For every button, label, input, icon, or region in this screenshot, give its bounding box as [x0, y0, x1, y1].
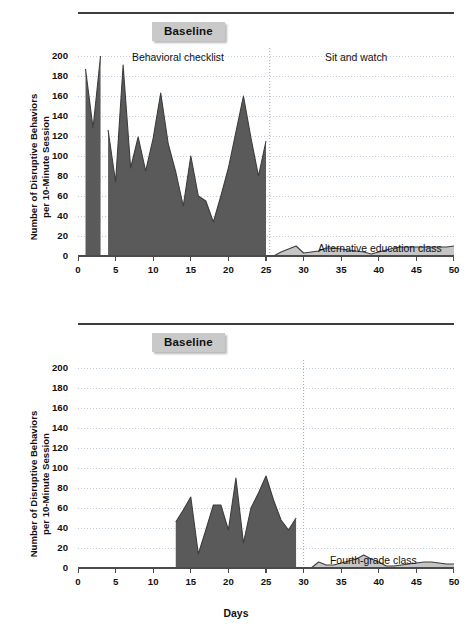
x-tick-label: 50 [439, 576, 469, 587]
x-axis-title: Days [0, 608, 472, 619]
y-tick-label: 180 [30, 382, 68, 393]
x-tick-label: 15 [176, 264, 206, 275]
chart-panel-top: Baseline Number of Disruptive Behaviors … [0, 0, 472, 312]
x-tick-label: 15 [176, 576, 206, 587]
series-label-fourth-grade-class: Fourth-grade class [330, 555, 417, 566]
y-tick-label: 0 [30, 250, 68, 261]
y-tick-label: 180 [30, 70, 68, 81]
chart-panel-bottom: Baseline Number of Disruptive Behaviors … [0, 312, 472, 630]
y-tick-label: 140 [30, 422, 68, 433]
baseline-badge-top: Baseline [152, 22, 225, 41]
y-tick-label: 40 [30, 522, 68, 533]
y-tick-label: 0 [30, 562, 68, 573]
y-tick-label: 200 [30, 362, 68, 373]
x-tick-label: 30 [289, 576, 319, 587]
x-tick-label: 0 [63, 264, 93, 275]
y-tick-label: 60 [30, 502, 68, 513]
x-tick-label: 45 [401, 576, 431, 587]
y-tick-label: 40 [30, 210, 68, 221]
x-tick-label: 40 [364, 576, 394, 587]
y-tick-label: 80 [30, 170, 68, 181]
y-tick-label: 160 [30, 402, 68, 413]
y-tick-label: 100 [30, 462, 68, 473]
y-tick-label: 20 [30, 542, 68, 553]
y-tick-label: 200 [30, 50, 68, 61]
phase-label-behavioral-checklist: Behavioral checklist [132, 52, 224, 63]
series-label-alternative-education-class: Alternative education class [318, 243, 442, 254]
x-tick-label: 0 [63, 576, 93, 587]
x-tick-label: 35 [326, 576, 356, 587]
x-tick-label: 5 [101, 576, 131, 587]
phase-label-sit-and-watch: Sit and watch [325, 52, 387, 63]
y-tick-label: 140 [30, 110, 68, 121]
x-tick-label: 25 [251, 264, 281, 275]
y-tick-label: 120 [30, 442, 68, 453]
panel-top-rule [78, 12, 454, 14]
x-tick-label: 10 [138, 576, 168, 587]
y-tick-label: 60 [30, 190, 68, 201]
y-tick-label: 80 [30, 482, 68, 493]
x-tick-label: 20 [213, 264, 243, 275]
x-tick-label: 50 [439, 264, 469, 275]
y-tick-label: 20 [30, 230, 68, 241]
x-tick-label: 30 [289, 264, 319, 275]
y-tick-label: 160 [30, 90, 68, 101]
y-tick-label: 100 [30, 150, 68, 161]
x-tick-label: 5 [101, 264, 131, 275]
x-tick-label: 25 [251, 576, 281, 587]
x-tick-label: 45 [401, 264, 431, 275]
y-tick-label: 120 [30, 130, 68, 141]
panel-bottom-rule [78, 323, 454, 325]
x-tick-label: 35 [326, 264, 356, 275]
x-tick-label: 10 [138, 264, 168, 275]
baseline-badge-bottom: Baseline [152, 333, 225, 352]
x-tick-label: 20 [213, 576, 243, 587]
x-tick-label: 40 [364, 264, 394, 275]
